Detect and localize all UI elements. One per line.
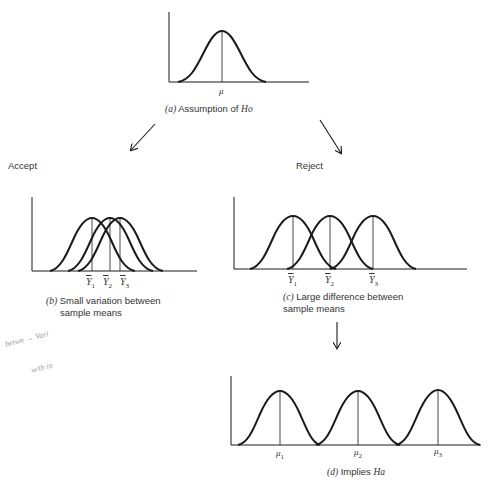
panel-b-mean-label-3: Y3: [120, 276, 129, 290]
panel-c-chart: [234, 197, 467, 269]
panel-c-mean-label-1: Y1: [288, 274, 297, 288]
subscript: 3: [375, 280, 379, 288]
caption-prefix: (b): [46, 296, 57, 306]
panel-c-mean-label-3: Y3: [369, 274, 378, 288]
caption-text: Assumption of: [178, 103, 238, 114]
reject-label: Reject: [296, 160, 323, 171]
caption-line-2: sample means: [283, 303, 345, 314]
panel-d-mean-label-3: μ3: [434, 446, 442, 459]
panel-a-caption: (a) Assumption of Ho: [165, 103, 253, 115]
accept-label: Accept: [8, 160, 37, 171]
panel-d-curve-1: [238, 391, 320, 445]
panel-b-chart: [32, 197, 197, 271]
caption-line-1: Small variation between: [60, 295, 161, 306]
subscript: 2: [331, 280, 335, 288]
panel-d-mean-label-2: μ2: [354, 447, 362, 460]
panel-b-mean-label-1: Y1: [86, 276, 95, 290]
reject-arrow: [320, 120, 341, 153]
panel-b-mean-label-2: Y2: [103, 276, 112, 290]
caption-prefix: (d): [327, 467, 338, 477]
panel-d-chart: [231, 376, 481, 445]
subscript: 1: [92, 282, 96, 290]
caption-line-1: Large difference between: [296, 291, 403, 302]
diagram-canvas: [0, 0, 493, 485]
caption-prefix: (c): [283, 292, 294, 302]
panel-a-mean-label: μ: [219, 86, 224, 96]
caption-prefix: (a): [165, 104, 176, 114]
panel-a-chart: [169, 12, 309, 82]
accept-arrow: [131, 124, 155, 150]
subscript: 3: [126, 282, 130, 290]
hypothesis-symbol: Ha: [373, 467, 385, 477]
subscript: 1: [294, 280, 298, 288]
panel-d-mean-label-1: μ1: [276, 448, 284, 461]
subscript: 2: [109, 282, 113, 290]
mu-symbol: μ: [219, 86, 224, 96]
panel-d-caption: (d) Implies Ha: [327, 466, 385, 478]
caption-line-2: sample means: [46, 307, 122, 318]
panel-b-caption: (b) Small variation between sample means: [46, 295, 161, 319]
subscript: 1: [281, 453, 285, 461]
hypothesis-symbol: Ho: [241, 104, 253, 114]
caption-text: Implies: [341, 466, 371, 477]
panel-c-caption: (c) Large difference between sample mean…: [283, 291, 403, 315]
subscript: 2: [359, 452, 363, 460]
panel-c-mean-label-2: Y2: [325, 274, 334, 288]
subscript: 3: [439, 451, 443, 459]
